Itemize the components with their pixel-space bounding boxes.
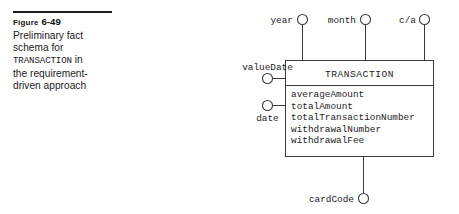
fact-name-label: TRANSACTION xyxy=(325,69,394,80)
dimension-node-cardcode[interactable] xyxy=(359,194,369,204)
dimension-label-valuedate: valueDate xyxy=(242,62,293,73)
dimension-label-year: year xyxy=(270,15,293,26)
dimension-node-year[interactable] xyxy=(298,15,308,25)
fact-schema-diagram: TRANSACTION averageAmount totalAmount to… xyxy=(0,0,459,214)
measure-label-3: withdrawalNumber xyxy=(291,124,381,135)
dimension-label-cardcode: cardCode xyxy=(309,194,354,205)
dimension-node-date[interactable] xyxy=(263,101,273,111)
measure-label-0: averageAmount xyxy=(291,89,364,100)
dimension-label-date: date xyxy=(256,113,279,124)
measure-label-2: totalTransactionNumber xyxy=(291,112,415,123)
dimension-node-ca[interactable] xyxy=(420,15,430,25)
dimension-node-valuedate[interactable] xyxy=(263,74,273,84)
dimension-label-ca: c/a xyxy=(399,15,416,26)
dimension-label-month: month xyxy=(328,15,356,26)
dimension-node-month[interactable] xyxy=(361,15,371,25)
measure-label-1: totalAmount xyxy=(291,101,353,112)
measure-label-4: withdrawalFee xyxy=(291,135,365,146)
